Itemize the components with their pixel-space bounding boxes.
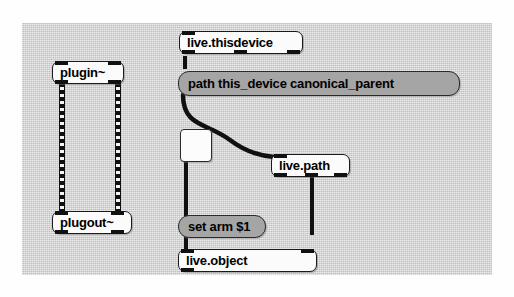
object-box-live-object[interactable]: live.object — [178, 249, 317, 272]
live-thisdevice-outlet-0[interactable] — [182, 50, 195, 54]
plugin-outlet-1[interactable] — [108, 80, 121, 84]
live-path-outlet-1[interactable] — [305, 173, 318, 177]
cable-live-path-to-live-object[interactable] — [310, 177, 314, 235]
object-box-plugout[interactable]: plugout~ — [52, 211, 132, 234]
plugin-inlet-1[interactable] — [108, 61, 121, 65]
plugout-inlet-1[interactable] — [111, 211, 124, 215]
cable-toggle-to-set-arm[interactable] — [184, 162, 188, 218]
live-object-inlet-1[interactable] — [301, 249, 314, 253]
live-path-outlet-0[interactable] — [274, 173, 287, 177]
message-label-set-arm: set arm $1 — [179, 220, 259, 233]
cable-set-arm-to-live-object[interactable] — [184, 236, 188, 250]
plugin-inlet-0[interactable] — [55, 61, 68, 65]
object-box-live-thisdevice[interactable]: live.thisdevice — [179, 31, 303, 54]
live-path-inlet-0[interactable] — [274, 154, 287, 158]
plugout-outlet-0[interactable] — [55, 230, 68, 234]
live-path-outlet-2[interactable] — [334, 173, 347, 177]
toggle-object[interactable] — [180, 129, 212, 162]
live-thisdevice-outlet-1[interactable] — [234, 50, 247, 54]
plugout-inlet-0[interactable] — [55, 211, 68, 215]
message-label-path: path this_device canonical_parent — [179, 77, 403, 90]
max-patcher-canvas[interactable]: plugin~ plugout~ live.thisdevice path th… — [22, 23, 492, 275]
message-box-path[interactable]: path this_device canonical_parent — [178, 71, 460, 96]
object-label-live-path: live.path — [272, 159, 337, 172]
message-box-set-arm[interactable]: set arm $1 — [178, 215, 266, 238]
plugin-outlet-0[interactable] — [55, 80, 68, 84]
screenshot-root: plugin~ plugout~ live.thisdevice path th… — [0, 0, 514, 297]
live-thisdevice-outlet-2[interactable] — [287, 50, 300, 54]
object-box-live-path[interactable]: live.path — [271, 154, 350, 177]
live-object-inlet-0[interactable] — [181, 249, 194, 253]
object-label-plugout: plugout~ — [53, 216, 121, 229]
object-label-live-object: live.object — [179, 254, 254, 267]
object-label-plugin: plugin~ — [53, 66, 112, 79]
live-object-outlet-0[interactable] — [181, 268, 194, 272]
object-box-plugin[interactable]: plugin~ — [52, 61, 124, 84]
plugout-outlet-1[interactable] — [111, 230, 124, 234]
live-thisdevice-inlet-0[interactable] — [182, 31, 195, 35]
object-label-live-thisdevice: live.thisdevice — [180, 36, 280, 49]
